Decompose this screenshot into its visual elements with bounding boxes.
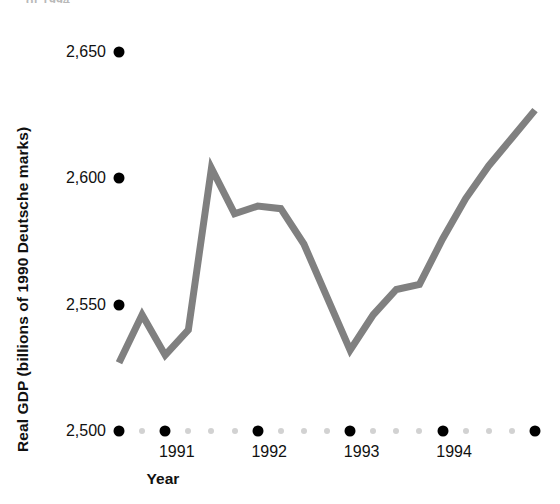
x-axis-minor-dot [278, 428, 284, 434]
x-axis-minor-dot [139, 428, 145, 434]
y-axis-dot-2550 [114, 299, 125, 310]
x-axis-major-dot [252, 426, 263, 437]
y-axis-dot-2500 [114, 426, 125, 437]
x-axis-title: Year [147, 470, 180, 488]
x-axis-minor-dot [393, 428, 399, 434]
x-axis-major-dot [437, 426, 448, 437]
x-axis-major-dot [345, 426, 356, 437]
x-axis-minor-dot [509, 428, 515, 434]
x-axis-minor-dot [463, 428, 469, 434]
x-axis-minor-dot [208, 428, 214, 434]
x-axis-minor-dot [370, 428, 376, 434]
x-axis-minor-dot [301, 428, 307, 434]
gdp-line-series [119, 110, 535, 363]
x-tick-label-1993: 1993 [344, 443, 380, 461]
x-axis-minor-dot [324, 428, 330, 434]
x-tick-label-1991: 1991 [159, 443, 195, 461]
x-axis-minor-dot [185, 428, 191, 434]
y-axis-dot-2600 [114, 173, 125, 184]
x-axis-major-dot [160, 426, 171, 437]
y-axis-dot-2650 [114, 47, 125, 58]
x-tick-label-1994: 1994 [436, 443, 472, 461]
x-tick-label-1992: 1992 [251, 443, 287, 461]
x-axis-minor-dot [232, 428, 238, 434]
x-axis-minor-dot [416, 428, 422, 434]
gdp-line-chart: of 1994. Real GDP (billions of 1990 Deut… [0, 0, 560, 504]
x-axis-major-dot [530, 426, 541, 437]
x-axis-minor-dot [486, 428, 492, 434]
